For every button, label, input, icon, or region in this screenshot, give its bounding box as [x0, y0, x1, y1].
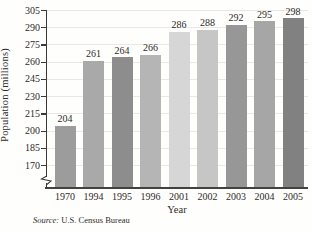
y-axis-tick	[41, 131, 46, 132]
x-axis-line	[45, 187, 308, 189]
y-axis-tick-label: 290	[14, 23, 40, 33]
bar-2001	[169, 32, 190, 187]
y-axis-tick	[41, 148, 46, 149]
y-axis-tick	[41, 79, 46, 80]
bar-2002	[197, 30, 218, 187]
bar-value-label: 298	[278, 7, 308, 17]
x-axis-title: Year	[46, 204, 308, 215]
y-axis-tick	[41, 44, 46, 45]
y-axis-tick-label: 260	[14, 57, 40, 67]
y-axis-title: Population (millions)	[0, 48, 10, 142]
y-axis-tick-label: 275	[14, 40, 40, 50]
x-axis-label-2005: 2005	[276, 191, 310, 203]
bar-value-label: 286	[164, 20, 194, 30]
bar-value-label: 288	[193, 18, 223, 28]
bar-value-label: 261	[79, 49, 109, 59]
source-note: Source: U.S. Census Bureau	[33, 215, 130, 225]
y-axis-line	[46, 10, 47, 177]
source-prefix: Source:	[33, 215, 59, 225]
y-axis-tick-label: 230	[14, 92, 40, 102]
y-axis-tick	[41, 96, 46, 97]
source-text: U.S. Census Bureau	[59, 215, 130, 225]
bar-value-label: 266	[136, 43, 166, 53]
y-axis-tick-label: 305	[14, 6, 40, 16]
y-axis-tick-label: 200	[14, 126, 40, 136]
bar-1996	[140, 55, 161, 187]
bar-2005	[283, 18, 304, 187]
plot-area: 204261264266286288292295298	[46, 10, 308, 187]
axis-break-icon	[40, 176, 53, 185]
bar-value-label: 204	[50, 114, 80, 124]
bar-1970	[55, 126, 76, 187]
bar-value-label: 292	[221, 13, 251, 23]
y-axis-tick-label: 215	[14, 109, 40, 119]
bar-2003	[226, 25, 247, 187]
y-axis-tick-label: 185	[14, 143, 40, 153]
y-axis-tick	[41, 62, 46, 63]
bar-value-label: 264	[107, 46, 137, 56]
bar-1994	[83, 61, 104, 187]
y-axis-tick-label: 245	[14, 74, 40, 84]
y-axis-tick	[41, 27, 46, 28]
y-axis-tick	[41, 165, 46, 166]
y-axis-tick	[41, 113, 46, 114]
population-bar-chart: Population (millions) 204261264266286288…	[0, 0, 312, 232]
bar-1995	[112, 57, 133, 187]
y-axis-tick	[41, 10, 46, 11]
bar-2004	[254, 21, 275, 187]
y-axis-tick-label: 170	[14, 161, 40, 171]
bar-value-label: 295	[250, 10, 280, 20]
